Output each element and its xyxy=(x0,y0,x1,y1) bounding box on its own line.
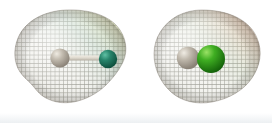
right-molecule-svg xyxy=(136,0,272,123)
left-molecule-svg xyxy=(0,0,136,123)
atom-hydrogen-left xyxy=(50,48,69,67)
atom-halogen-left xyxy=(99,50,117,68)
atom-hydrogen-right xyxy=(177,47,199,69)
right-molecule-panel xyxy=(136,0,272,123)
left-molecule-panel xyxy=(0,0,136,123)
atom-halogen-right xyxy=(197,45,225,73)
bottom-haze-band xyxy=(0,113,272,123)
molecular-surface-figure: Two side-by-side wireframe mesh electron… xyxy=(0,0,272,123)
